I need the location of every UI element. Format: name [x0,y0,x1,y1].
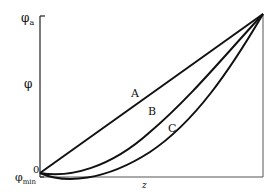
x-axis-label: z [141,180,147,190]
curve-a [40,14,263,173]
diagram-canvas: A B C φa φ 0 φmin z [0,0,278,192]
curve-c-label: C [168,122,176,135]
curve-a-label: A [130,87,140,100]
y-zero-label: 0 [33,164,39,175]
y-mid-label: φ [24,77,32,91]
y-top-label: φa [21,11,34,27]
curve-b-label: B [148,105,156,118]
